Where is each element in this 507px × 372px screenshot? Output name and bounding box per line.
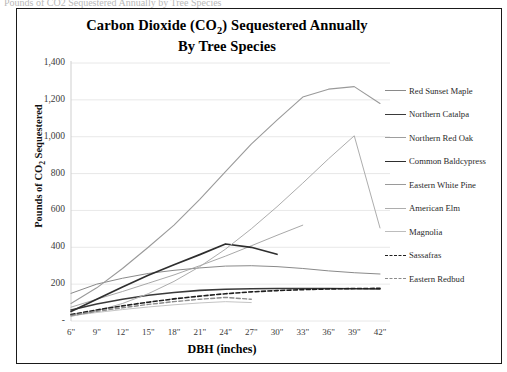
legend-swatch-icon — [385, 208, 406, 209]
y-tick-label: 1,200 — [21, 94, 65, 104]
legend-swatch-icon — [385, 278, 406, 279]
legend-item-magnolia[interactable]: Magnolia — [385, 220, 503, 244]
legend-swatch-icon — [385, 114, 406, 115]
legend-label: Northern Red Oak — [409, 133, 473, 143]
y-tick-label: 200 — [21, 278, 65, 288]
legend-item-eastern-white-pine[interactable]: Eastern White Pine — [385, 173, 503, 197]
legend-swatch-icon — [385, 184, 406, 185]
legend-swatch-icon — [385, 90, 406, 91]
legend-item-northern-red-oak[interactable]: Northern Red Oak — [385, 126, 503, 150]
y-tick-label: 600 — [21, 204, 65, 214]
legend-label: Common Baldcypress — [409, 156, 486, 166]
legend-swatch-icon — [385, 137, 406, 138]
legend-item-red-sunset-maple[interactable]: Red Sunset Maple — [385, 79, 503, 103]
y-tick-label: 1,000 — [21, 131, 65, 141]
legend-item-eastern-redbud[interactable]: Eastern Redbud — [385, 267, 503, 291]
chart-page: Pounds of CO2 Sequestered Annually by Tr… — [0, 0, 507, 372]
y-tick-label: 400 — [21, 241, 65, 251]
y-tick-label: 800 — [21, 168, 65, 178]
y-tick-label: 1,400 — [21, 57, 65, 67]
legend-swatch-icon — [385, 255, 406, 256]
legend-item-american-elm[interactable]: American Elm — [385, 197, 503, 221]
y-axis-title: Pounds of CO2 Sequestered — [33, 91, 47, 241]
legend-swatch-icon — [385, 231, 406, 232]
legend-label: Northern Catalpa — [409, 109, 469, 119]
legend-item-common-baldcypress[interactable]: Common Baldcypress — [385, 150, 503, 174]
x-axis-title: DBH (inches) — [57, 342, 387, 357]
chart-frame: Carbon Dioxide (CO2) Sequestered Annuall… — [16, 8, 502, 364]
legend-label: American Elm — [409, 203, 460, 213]
chart-legend: Red Sunset MapleNorthern CatalpaNorthern… — [385, 79, 503, 291]
scan-clipped-header-text: Pounds of CO2 Sequestered Annually by Tr… — [4, 0, 264, 8]
legend-swatch-icon — [385, 161, 406, 162]
legend-label: Red Sunset Maple — [409, 86, 473, 96]
legend-item-northern-catalpa[interactable]: Northern Catalpa — [385, 103, 503, 127]
x-tick-label: 42" — [365, 327, 395, 337]
y-tick-label: - — [21, 315, 65, 325]
legend-label: Eastern Redbud — [409, 274, 464, 284]
legend-item-sassafras[interactable]: Sassafras — [385, 244, 503, 268]
legend-label: Magnolia — [409, 227, 442, 237]
legend-label: Sassafras — [409, 250, 441, 260]
legend-label: Eastern White Pine — [409, 180, 476, 190]
